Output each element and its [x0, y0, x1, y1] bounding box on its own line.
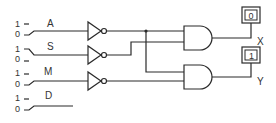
switch-m-high-label: 1	[15, 68, 20, 78]
switch-a-high-label: 1	[15, 19, 20, 29]
output-label-x: X	[257, 36, 264, 47]
wire-not-a-to-and-y	[146, 31, 184, 72]
output-label-y: Y	[257, 76, 264, 87]
and-gate-y	[184, 65, 212, 89]
logic-circuit-diagram: 1 0 A 1 0 S 1 0 M 1 0 D	[0, 0, 276, 123]
switch-d-low-label: 0	[15, 104, 20, 114]
wire-and-y-to-output	[212, 63, 251, 77]
switch-m-low-label: 0	[15, 79, 20, 89]
output-x-display: 0	[242, 7, 260, 23]
wire-and-x-to-output	[212, 23, 251, 38]
switch-d-high-label: 1	[15, 93, 20, 103]
output-y-display: 1	[242, 47, 260, 63]
input-label-m: M	[44, 66, 52, 77]
input-label-d: D	[45, 90, 52, 101]
output-y-value: 1	[249, 51, 254, 61]
input-label-s: S	[47, 41, 54, 52]
not-gate-a	[88, 22, 107, 40]
output-x-value: 0	[249, 11, 254, 21]
not-gate-m	[88, 72, 107, 90]
switch-s-high-label: 1	[15, 44, 20, 54]
wire-junction	[144, 29, 147, 32]
switch-d[interactable]: 1 0	[15, 93, 73, 114]
not-gate-s	[88, 46, 107, 64]
switch-a-low-label: 0	[15, 29, 20, 39]
and-gate-x	[184, 26, 212, 50]
input-label-a: A	[47, 18, 54, 29]
switch-s-low-label: 0	[15, 54, 20, 64]
